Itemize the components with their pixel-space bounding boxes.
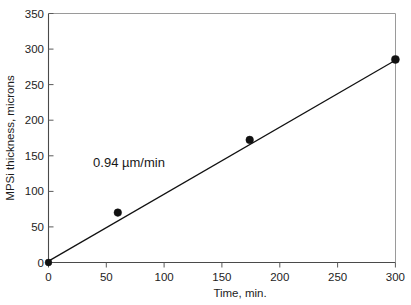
- y-tick-label: 300: [25, 43, 44, 55]
- y-tick-label: 250: [25, 79, 44, 91]
- y-tick-label: 0: [38, 257, 44, 269]
- slope-annotation: 0.94 µm/min: [93, 155, 165, 170]
- data-point: [246, 136, 254, 144]
- x-tick-label: 150: [212, 271, 231, 283]
- y-tick-label: 350: [25, 8, 44, 20]
- chart-figure: 350 300 250 200 150 100 50 0 0 50 100 15…: [0, 0, 411, 305]
- x-tick-label: 300: [386, 271, 405, 283]
- y-axis-title: MPSi thickness, microns: [4, 75, 16, 201]
- chart-background: [0, 0, 411, 305]
- scatter-chart: 350 300 250 200 150 100 50 0 0 50 100 15…: [0, 0, 411, 305]
- x-tick-label: 50: [100, 271, 113, 283]
- y-tick-label: 100: [25, 185, 44, 197]
- y-tick-label: 150: [25, 150, 44, 162]
- data-point: [45, 259, 52, 266]
- x-axis-title: Time, min.: [213, 287, 266, 299]
- y-tick-label: 50: [31, 221, 44, 233]
- data-point: [114, 209, 122, 217]
- x-tick-label: 100: [155, 271, 174, 283]
- data-point: [391, 55, 399, 63]
- x-tick-label: 0: [45, 271, 51, 283]
- x-tick-label: 250: [328, 271, 347, 283]
- y-tick-label: 200: [25, 114, 44, 126]
- x-tick-label: 200: [270, 271, 289, 283]
